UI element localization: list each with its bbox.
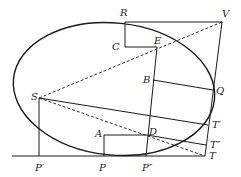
label-Q: Q [216, 86, 224, 96]
dashed-line-ST [39, 98, 205, 156]
diagram-canvas: R V C E B Q S T′ A D T″ T P′ P P″ [0, 0, 241, 177]
label-D: D [149, 127, 157, 137]
geometry-figure [0, 0, 241, 177]
label-C: C [112, 42, 120, 52]
label-P: P [99, 163, 106, 173]
label-P-prime: P′ [35, 163, 44, 173]
label-E: E [154, 36, 161, 46]
label-V: V [222, 9, 229, 19]
label-B: B [143, 75, 150, 85]
label-P-double-prime: P″ [142, 163, 152, 173]
line-ST1 [39, 98, 208, 125]
label-R: R [120, 8, 128, 18]
label-T-double-prime: T″ [210, 140, 220, 150]
line-EP2 [146, 47, 157, 156]
label-S: S [31, 92, 38, 102]
line-BQ [153, 80, 213, 90]
label-T-prime: T′ [212, 120, 221, 130]
label-T: T [209, 151, 216, 161]
label-A: A [95, 129, 102, 139]
